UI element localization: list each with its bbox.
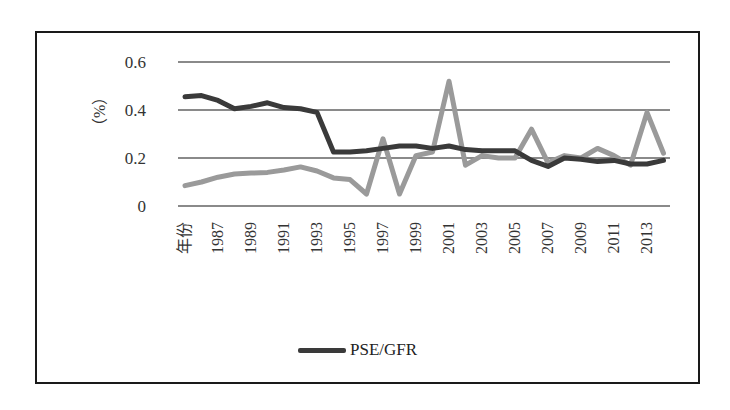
y-tick-label: 0.4 — [125, 101, 147, 120]
y-tick-label: 0.6 — [125, 53, 146, 72]
series-secondary-line — [185, 81, 664, 194]
x-tick-label: 2001 — [440, 222, 457, 254]
legend-label-pse-gfr: PSE/GFR — [350, 340, 417, 360]
x-tick-label: 2003 — [473, 222, 490, 254]
x-tick-label: 1999 — [407, 222, 424, 254]
y-tick-label: 0 — [138, 197, 147, 216]
x-tick-label: 年份 — [176, 222, 193, 254]
x-tick-label: 2011 — [605, 222, 622, 253]
x-tick-label: 1991 — [275, 222, 292, 254]
x-tick-label: 1987 — [209, 222, 226, 254]
y-tick-label: 0.2 — [125, 149, 146, 168]
x-tick-label: 2013 — [638, 222, 655, 254]
y-axis-label: （%） — [86, 110, 106, 134]
x-tick-label: 1993 — [308, 222, 325, 254]
legend-swatch-pse-gfr — [298, 348, 346, 353]
x-tick-label: 2009 — [572, 222, 589, 254]
legend: PSE/GFR — [298, 340, 417, 360]
x-tick-label: 2007 — [539, 222, 556, 254]
x-tick-label: 2005 — [506, 222, 523, 254]
x-tick-label: 1989 — [242, 222, 259, 254]
x-tick-label: 1995 — [341, 222, 358, 254]
x-tick-label: 1997 — [374, 222, 391, 254]
